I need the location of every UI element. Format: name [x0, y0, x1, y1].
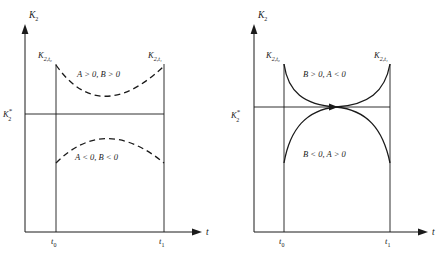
x-axis-label: t	[432, 227, 435, 237]
tick-label-t0: t0	[279, 236, 284, 248]
annotation-lower: B < 0, A > 0	[303, 149, 347, 159]
x-axis-arrowhead	[192, 229, 202, 236]
endpoint-label-right: K2,t₁	[147, 50, 162, 62]
endpoint-label-left: K2,t₀	[265, 50, 280, 62]
y-axis-label: K2	[257, 10, 267, 22]
annotation-lower: A < 0, B < 0	[74, 152, 119, 162]
panel-right: K2 t K*2 K2,t₀ K2,t₁ t0 t1 B > 0, A < 0 …	[222, 0, 444, 256]
panel-left: K2 t K*2 K2,t₀ K2,t₁ t0 t1 A > 0, B > 0 …	[0, 0, 222, 256]
annotation-upper: A > 0, B > 0	[76, 69, 121, 79]
endpoint-label-left: K2,t₀	[37, 50, 52, 62]
tick-label-t1: t1	[385, 236, 390, 248]
endpoint-label-right: K2,t₁	[373, 50, 388, 62]
reference-label-k2-star: K*2	[230, 108, 241, 123]
figure-root: K2 t K*2 K2,t₀ K2,t₁ t0 t1 A > 0, B > 0 …	[0, 0, 444, 256]
tick-label-t0: t0	[51, 236, 56, 248]
tick-label-t1: t1	[159, 236, 164, 248]
x-axis-label: t	[206, 227, 209, 237]
y-axis-label: K2	[28, 10, 38, 22]
y-axis-arrowhead	[251, 24, 258, 34]
annotation-upper: B > 0, A < 0	[303, 69, 347, 79]
reference-label-k2-star: K*2	[2, 107, 13, 122]
y-axis-arrowhead	[22, 24, 29, 34]
saddle-point-arrowhead	[329, 103, 338, 110]
x-axis-arrowhead	[418, 229, 428, 236]
